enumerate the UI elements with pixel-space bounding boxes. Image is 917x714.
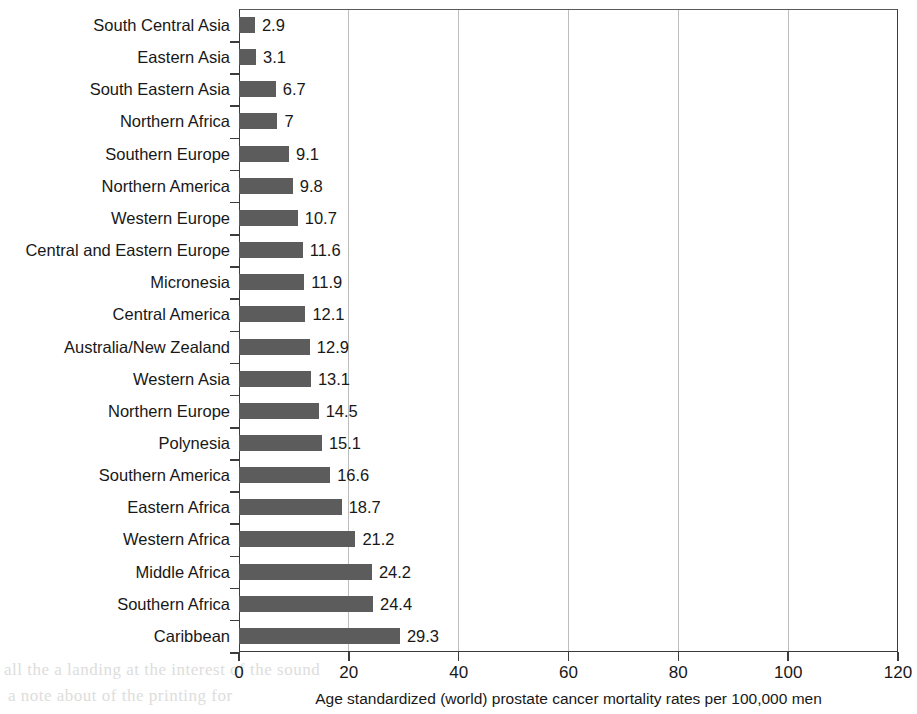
bar-row: Central and Eastern Europe11.6 bbox=[0, 234, 911, 266]
x-axis-tick-label: 120 bbox=[858, 663, 917, 683]
bar-value-label: 11.6 bbox=[310, 234, 341, 266]
bar-row: Southern Africa24.4 bbox=[0, 588, 911, 620]
category-label: Australia/New Zealand bbox=[0, 331, 230, 363]
bar bbox=[239, 435, 322, 451]
category-label: Western Europe bbox=[0, 202, 230, 234]
bar-value-label: 9.8 bbox=[300, 170, 323, 202]
category-label: Northern Europe bbox=[0, 395, 230, 427]
x-axis-tick-label: 40 bbox=[419, 663, 499, 683]
bar-value-label: 21.2 bbox=[362, 523, 394, 555]
bar-row: Western Africa21.2 bbox=[0, 523, 911, 555]
x-axis-tick-label: 60 bbox=[529, 663, 609, 683]
category-label: Southern Europe bbox=[0, 138, 230, 170]
bar bbox=[239, 596, 373, 612]
category-label: South Central Asia bbox=[0, 9, 230, 41]
x-axis-tick bbox=[897, 652, 899, 661]
bar-row: Northern Africa7 bbox=[0, 105, 911, 137]
bar-row: Polynesia15.1 bbox=[0, 427, 911, 459]
bar-value-label: 15.1 bbox=[329, 427, 361, 459]
bar bbox=[239, 242, 303, 258]
bar-row: Western Asia13.1 bbox=[0, 363, 911, 395]
bar-value-label: 2.9 bbox=[262, 9, 285, 41]
category-label: Southern America bbox=[0, 459, 230, 491]
x-axis-title: Age standardized (world) prostate cancer… bbox=[239, 690, 898, 708]
x-axis-tick bbox=[238, 652, 240, 661]
bar-value-label: 10.7 bbox=[305, 202, 337, 234]
x-axis-tick bbox=[568, 652, 570, 661]
bar-row: Central America12.1 bbox=[0, 298, 911, 330]
bar bbox=[239, 146, 289, 162]
category-label: Northern America bbox=[0, 170, 230, 202]
category-label: Southern Africa bbox=[0, 588, 230, 620]
bar-row: Eastern Africa18.7 bbox=[0, 491, 911, 523]
category-label: Middle Africa bbox=[0, 556, 230, 588]
bar-row: Northern Europe14.5 bbox=[0, 395, 911, 427]
category-label: South Eastern Asia bbox=[0, 73, 230, 105]
bar-value-label: 3.1 bbox=[263, 41, 286, 73]
bar-value-label: 24.2 bbox=[379, 556, 411, 588]
category-label: Eastern Asia bbox=[0, 41, 230, 73]
bar bbox=[239, 81, 276, 97]
bar bbox=[239, 371, 311, 387]
category-label: Northern Africa bbox=[0, 105, 230, 137]
bar-row: Middle Africa24.2 bbox=[0, 556, 911, 588]
bar bbox=[239, 628, 400, 644]
bar-value-label: 12.1 bbox=[312, 298, 344, 330]
x-axis-tick bbox=[678, 652, 680, 661]
bar-value-label: 13.1 bbox=[318, 363, 350, 395]
bar bbox=[239, 49, 256, 65]
bar bbox=[239, 499, 342, 515]
bar-value-label: 7 bbox=[284, 105, 293, 137]
bar-row: South Central Asia2.9 bbox=[0, 9, 911, 41]
bar-row: Eastern Asia3.1 bbox=[0, 41, 911, 73]
bar-row: Northern America9.8 bbox=[0, 170, 911, 202]
category-label: Caribbean bbox=[0, 620, 230, 652]
bar bbox=[239, 178, 293, 194]
bar bbox=[239, 113, 277, 129]
x-axis-tick bbox=[458, 652, 460, 661]
category-label: Western Asia bbox=[0, 363, 230, 395]
bar-row: Southern America16.6 bbox=[0, 459, 911, 491]
category-label: Eastern Africa bbox=[0, 491, 230, 523]
bar bbox=[239, 17, 255, 33]
bar bbox=[239, 564, 372, 580]
bar-value-label: 24.4 bbox=[380, 588, 412, 620]
category-label: Central and Eastern Europe bbox=[0, 234, 230, 266]
x-axis-tick bbox=[787, 652, 789, 661]
bar bbox=[239, 210, 298, 226]
bar bbox=[239, 467, 330, 483]
x-axis-tick bbox=[348, 652, 350, 661]
x-axis-tick-label: 20 bbox=[309, 663, 389, 683]
bar-value-label: 11.9 bbox=[311, 266, 342, 298]
bar-value-label: 14.5 bbox=[326, 395, 358, 427]
bar-value-label: 9.1 bbox=[296, 138, 319, 170]
category-label: Polynesia bbox=[0, 427, 230, 459]
x-axis-tick-label: 0 bbox=[199, 663, 279, 683]
bar-value-label: 12.9 bbox=[317, 331, 349, 363]
category-label: Central America bbox=[0, 298, 230, 330]
category-label: Western Africa bbox=[0, 523, 230, 555]
scan-artifact-text: a note about of the printing for bbox=[8, 686, 233, 706]
bar-value-label: 16.6 bbox=[337, 459, 369, 491]
bar-row: Australia/New Zealand12.9 bbox=[0, 331, 911, 363]
bar-value-label: 29.3 bbox=[407, 620, 439, 652]
bar-row: Caribbean29.3 bbox=[0, 620, 911, 652]
bar bbox=[239, 306, 305, 322]
bar bbox=[239, 274, 304, 290]
bar bbox=[239, 339, 310, 355]
bar-row: Southern Europe9.1 bbox=[0, 138, 911, 170]
category-label: Micronesia bbox=[0, 266, 230, 298]
bar-value-label: 6.7 bbox=[283, 73, 306, 105]
x-axis-tick-label: 80 bbox=[638, 663, 718, 683]
bar-row: South Eastern Asia6.7 bbox=[0, 73, 911, 105]
bar-row: Micronesia11.9 bbox=[0, 266, 911, 298]
bar bbox=[239, 403, 319, 419]
bar-value-label: 18.7 bbox=[349, 491, 381, 523]
bar bbox=[239, 531, 355, 547]
bar-row: Western Europe10.7 bbox=[0, 202, 911, 234]
x-axis-tick-label: 100 bbox=[748, 663, 828, 683]
